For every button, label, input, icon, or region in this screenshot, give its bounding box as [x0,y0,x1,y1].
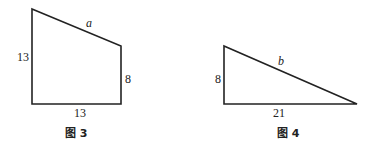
trapezoid-shape [32,9,121,104]
figure-3: a 13 8 13 图 3 [17,9,131,140]
caption-figure-3: 图 3 [65,127,87,140]
label-bottom-21: 21 [273,106,285,120]
label-left-13: 13 [17,50,29,64]
triangle-shape [224,46,357,104]
figure-4: b 8 21 图 4 [215,46,357,140]
caption-figure-4: 图 4 [277,127,300,140]
label-a: a [86,16,92,30]
label-left-8: 8 [215,72,221,86]
diagram-canvas: a 13 8 13 图 3 b 8 21 图 4 [0,0,371,152]
label-bottom-13: 13 [74,106,86,120]
label-right-8: 8 [125,72,131,86]
label-b: b [278,54,284,68]
